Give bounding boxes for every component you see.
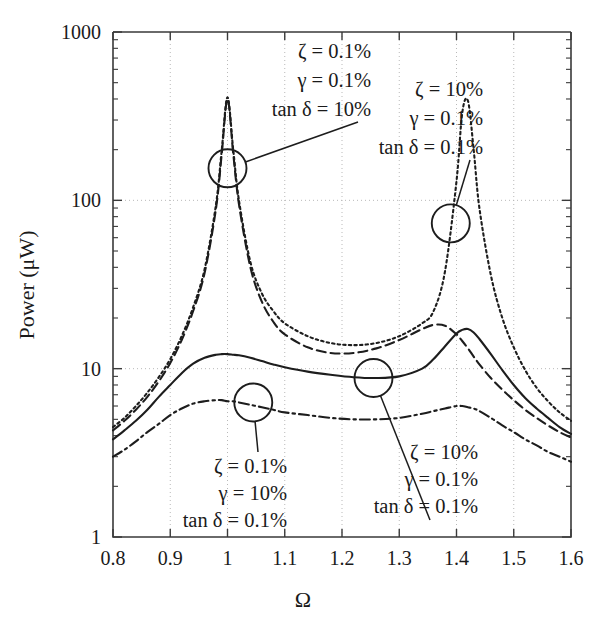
x-tick-label: 1 [223,547,233,569]
x-tick-label: 0.8 [101,547,126,569]
ann-top-right-line1: ζ = 10% [415,78,483,101]
ann-top-left-line3: tan δ = 10% [272,98,371,120]
x-tick-label: 1.1 [272,547,297,569]
ann-bot-right-line1: ζ = 10% [410,441,478,464]
ann-top-right-line2: γ = 0.1% [408,107,483,130]
x-tick-label: 1.3 [387,547,412,569]
ann-top-right-line3: tan δ = 0.1% [379,136,483,158]
x-tick-label: 1.2 [330,547,355,569]
power-vs-omega-chart: 0.80.911.11.21.31.41.51.6 1101001000 ζ =… [0,0,607,623]
figure-container: 0.80.911.11.21.31.41.51.6 1101001000 ζ =… [0,0,607,623]
y-tick-label: 1 [91,526,101,548]
x-tick-label: 1.5 [501,547,526,569]
ann-bot-left-line2: γ = 10% [218,482,287,505]
ann-bot-left-line3: tan δ = 0.1% [183,509,287,531]
y-axis-title: Power (μW) [14,231,39,340]
x-axis-title: Ω [295,587,311,612]
x-tick-labels: 0.80.911.11.21.31.41.51.6 [101,547,584,569]
ann-top-left-line2: γ = 0.1% [296,69,371,92]
ann-bot-right-line3: tan δ = 0.1% [374,495,478,517]
x-tick-label: 1.6 [559,547,584,569]
x-tick-label: 0.9 [158,547,183,569]
ann-bot-right-line2: γ = 0.1% [403,468,478,491]
ann-top-left-line1: ζ = 0.1% [298,40,371,63]
x-tick-label: 1.4 [444,547,469,569]
ann-bot-left-line1: ζ = 0.1% [214,455,287,478]
y-tick-label: 100 [71,189,101,211]
y-tick-label: 1000 [61,21,101,43]
y-tick-label: 10 [81,358,101,380]
